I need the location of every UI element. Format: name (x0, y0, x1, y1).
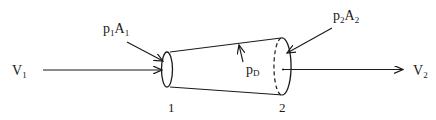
section-2-label: 2 (279, 100, 286, 115)
pd-label: pD (246, 62, 260, 78)
section-2-ellipse-back (274, 38, 283, 95)
section-2-ellipse-front (281, 38, 291, 95)
p2a2-label: p2A2 (333, 8, 359, 25)
duct-bottom-wall (170, 87, 283, 95)
duct-top-wall (170, 38, 281, 52)
p1a1-label: p1A1 (103, 21, 129, 38)
duct-momentum-diagram: V1 p1A1 pD p2A2 V2 1 2 (0, 0, 436, 120)
v2-label: V2 (413, 63, 428, 80)
v1-label: V1 (12, 63, 27, 80)
section-1-ellipse (162, 52, 173, 87)
section-1-label: 1 (168, 100, 175, 115)
wall-pressure-arrow (239, 45, 243, 62)
outlet-force-arrow (287, 28, 332, 53)
inlet-force-arrow (127, 42, 163, 61)
